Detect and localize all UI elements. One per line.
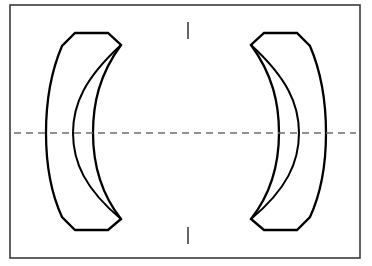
lens-diagram-figure — [0, 0, 372, 266]
left-lens-element — [46, 33, 121, 230]
technical-drawing-canvas — [0, 0, 372, 266]
right-lens-element — [251, 33, 326, 230]
